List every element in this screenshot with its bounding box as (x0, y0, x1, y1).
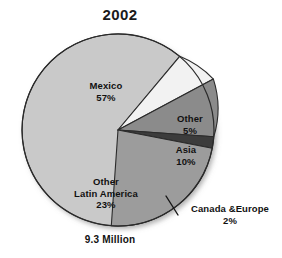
slice-label-mexico: Mexico 57% (62, 80, 150, 103)
slice-label-other-value: 5% (152, 125, 228, 137)
slice-label-other-latin-america-value: 23% (56, 199, 156, 211)
slice-label-canada-europe: Canada &Europe 2% (178, 203, 282, 226)
slice-label-other: Other 5% (152, 113, 228, 136)
slice-label-asia: Asia 10% (150, 144, 222, 167)
slice-label-other-latin-america: Other Latin America 23% (56, 176, 156, 211)
slice-label-canada-europe-name: Canada &Europe (191, 203, 269, 214)
slice-label-asia-value: 10% (150, 156, 222, 168)
chart-caption-total: 9.3 Million (52, 234, 168, 245)
slice-label-canada-europe-value: 2% (178, 215, 282, 227)
pie-chart-figure: 2002 Mexico 57% Other 5% (0, 0, 282, 258)
slice-label-other-latin-america-line1: Other (93, 176, 119, 187)
slice-label-mexico-value: 57% (62, 92, 150, 104)
slice-label-other-name: Other (177, 113, 203, 124)
slice-label-asia-name: Asia (176, 144, 196, 155)
slice-label-other-latin-america-line2: Latin America (56, 188, 156, 200)
slice-label-mexico-name: Mexico (90, 80, 123, 91)
